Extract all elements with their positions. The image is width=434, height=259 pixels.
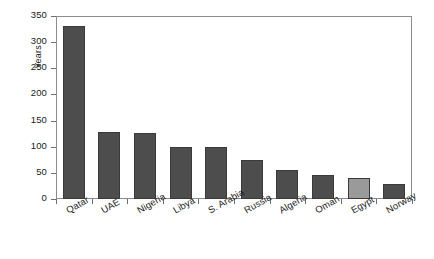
x-tick-mark	[56, 199, 57, 204]
bar-chart: Years 050100150200250300350 QatarUAENige…	[0, 0, 434, 259]
bar-nigeria	[134, 133, 156, 199]
bar-libya	[170, 147, 192, 199]
y-tick-label: 0	[42, 192, 47, 203]
y-tick-label: 100	[31, 140, 47, 151]
bar-qatar	[63, 26, 85, 199]
y-tick-label: 200	[31, 87, 47, 98]
y-tick-label: 50	[36, 166, 47, 177]
bar-uae	[98, 132, 120, 199]
y-tick-label: 350	[31, 9, 47, 20]
bar-series	[56, 16, 412, 199]
x-tick-mark	[127, 199, 128, 204]
x-tick-mark	[92, 199, 93, 204]
y-tick-label: 150	[31, 114, 47, 125]
y-tick-label: 250	[31, 61, 47, 72]
bar-s-arabia	[205, 147, 227, 199]
x-tick-mark	[198, 199, 199, 204]
y-tick-label: 300	[31, 35, 47, 46]
x-tick-mark	[376, 199, 377, 204]
